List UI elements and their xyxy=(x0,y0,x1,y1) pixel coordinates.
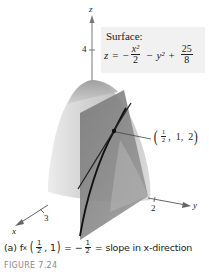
y-tick-2: 2 xyxy=(151,203,156,213)
close-paren: ) xyxy=(194,128,198,145)
caption-arg-rest: , 1 xyxy=(44,242,55,253)
surface-label-title: Surface: xyxy=(106,30,143,42)
caption-subscript: x xyxy=(23,244,27,252)
eq-term1: x² 2 xyxy=(131,44,140,65)
caption-val-den: 2 xyxy=(86,248,90,255)
figure-caption: (a) fx ( 1 2 , 1 ) = − 1 2 = slope in x-… xyxy=(4,239,192,256)
caption-equals: = xyxy=(64,242,72,253)
eq-term3: 25 8 xyxy=(181,44,193,65)
eq-minus2: − xyxy=(146,49,152,61)
x-tick-3: 3 xyxy=(44,213,49,223)
caption-part: (a) xyxy=(4,242,17,253)
open-paren: ( xyxy=(154,128,158,145)
caption-arg-den: 2 xyxy=(37,248,41,255)
caption-open-paren: ( xyxy=(30,239,34,256)
point-x-den: 2 xyxy=(162,137,166,144)
caption-minus: − xyxy=(75,242,83,253)
x-axis-label: x xyxy=(12,226,16,236)
z-axis-label: z xyxy=(89,4,93,14)
caption-close-paren: ) xyxy=(57,239,61,256)
eq-term2: y² xyxy=(156,49,164,61)
caption-tail: = slope in x-direction xyxy=(95,242,192,253)
eq-term1-den: 2 xyxy=(133,55,138,65)
figure-number: FIGURE 7.24 xyxy=(4,261,57,270)
point-label: ( 1 2 , 1, 2 ) xyxy=(153,128,199,145)
eq-equals: = xyxy=(112,49,118,61)
caption-value-fraction: 1 2 xyxy=(85,240,91,255)
eq-minus1: − xyxy=(123,49,129,61)
z-axis xyxy=(89,15,95,82)
point-of-tangency xyxy=(112,129,116,133)
eq-plus: + xyxy=(169,49,175,61)
point-rest: , 1, 2 xyxy=(168,131,193,142)
point-x-fraction: 1 2 xyxy=(161,129,167,144)
z-tick-4: 4 xyxy=(82,44,87,54)
eq-term3-den: 8 xyxy=(184,55,189,65)
tangent-plane xyxy=(80,90,148,240)
surface-equation: z = − x² 2 − y² + 25 8 xyxy=(104,44,195,65)
y-axis-label: y xyxy=(193,200,197,210)
caption-arg-fraction: 1 2 xyxy=(36,240,42,255)
eq-lhs: z xyxy=(104,49,108,61)
